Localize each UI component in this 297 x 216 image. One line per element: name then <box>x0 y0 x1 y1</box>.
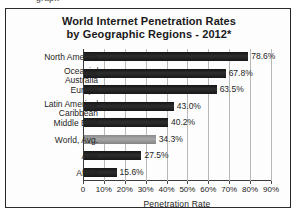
bar-row: 40.2% <box>83 115 271 130</box>
chart-title: World Internet Penetration Rates by Geog… <box>6 15 292 41</box>
category-label-north-america: North America <box>0 53 98 62</box>
category-label-europe: Europe <box>0 86 98 95</box>
bar-value-label: 43.0% <box>177 101 201 111</box>
category-label-middle-east: Middle East <box>0 119 98 128</box>
chart-page: graph World Internet Penetration Rates b… <box>0 0 297 216</box>
bar-row: 43.0% <box>83 99 271 114</box>
category-label-oceania-australia: Oceania/ Australia <box>0 67 98 84</box>
bar-value-label: 15.6% <box>120 167 144 177</box>
chart-title-line-1: World Internet Penetration Rates <box>62 15 236 27</box>
gridline-90% <box>271 49 272 181</box>
x-tick-10% <box>104 181 105 184</box>
chart-title-line-2: by Geographic Regions - 2012* <box>6 28 292 41</box>
bar-row: 78.6% <box>83 49 271 64</box>
x-tick-80% <box>250 181 251 184</box>
bar-row: 15.6% <box>83 165 271 180</box>
bar-row: 34.3% <box>83 132 271 147</box>
clipped-header-text: graph <box>0 0 297 7</box>
bar-row: 27.5% <box>83 148 271 163</box>
bar-value-label: 63.5% <box>220 84 244 94</box>
bar-value-label: 67.8% <box>229 68 253 78</box>
category-label-africa: Africa <box>0 169 98 178</box>
category-label-asia: Asia <box>0 152 98 161</box>
bar-oceania-australia <box>84 69 226 78</box>
x-axis-title: Penetration Rate <box>83 199 271 209</box>
category-label-world-avg.: World, Avg. <box>0 136 98 145</box>
x-tick-20% <box>125 181 126 184</box>
x-tick-90% <box>271 181 272 184</box>
x-tick-0 <box>83 181 84 184</box>
x-tick-60% <box>208 181 209 184</box>
category-label-latin-america-caribbean: Latin America/ Caribbean <box>0 100 98 117</box>
bar-north-america <box>84 52 248 61</box>
plot-area: 010%20%30%40%50%60%70%80%90% 78.6%67.8%6… <box>83 49 271 181</box>
x-tick-30% <box>146 181 147 184</box>
x-tick-label-90%: 90% <box>256 185 286 194</box>
bar-value-label: 34.3% <box>159 134 183 144</box>
x-tick-40% <box>167 181 168 184</box>
bar-row: 67.8% <box>83 66 271 81</box>
chart-frame: World Internet Penetration Rates by Geog… <box>5 8 291 208</box>
bar-row: 63.5% <box>83 82 271 97</box>
x-tick-50% <box>187 181 188 184</box>
bar-europe <box>84 85 217 94</box>
x-tick-70% <box>229 181 230 184</box>
bar-value-label: 40.2% <box>171 117 195 127</box>
bar-value-label: 78.6% <box>251 51 275 61</box>
bar-value-label: 27.5% <box>144 150 168 160</box>
